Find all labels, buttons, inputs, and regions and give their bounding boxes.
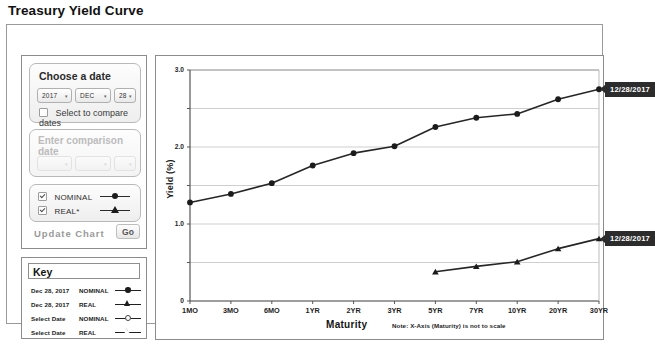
- month-select-value: DEC: [80, 92, 94, 99]
- chevron-down-icon: ▾: [65, 161, 68, 167]
- key-row-date: Select Date: [31, 329, 73, 336]
- x-axis-tick: 2YR: [334, 306, 374, 315]
- checkbox-icon[interactable]: [39, 108, 48, 117]
- chevron-down-icon: ▾: [65, 93, 68, 99]
- key-row-date: Dec 28, 2017: [31, 301, 73, 308]
- year-select[interactable]: 2017 ▾: [37, 88, 72, 103]
- x-axis-tick: 3YR: [375, 306, 415, 315]
- circle-marker-icon: [112, 193, 118, 199]
- key-row-date: Select Date: [31, 315, 73, 322]
- series-toggle-real[interactable]: REAL*: [38, 206, 102, 216]
- page-title: Treasury Yield Curve: [8, 3, 144, 18]
- y-axis-tick: 1.0: [160, 220, 184, 227]
- chevron-down-icon: ▾: [104, 93, 107, 99]
- series-toggle-nominal[interactable]: NOMINAL: [38, 192, 102, 202]
- open-circle-icon: [125, 315, 131, 321]
- month-select[interactable]: DEC ▾: [75, 88, 111, 103]
- compare-dates-checkbox-row[interactable]: Select to compare dates: [39, 108, 140, 128]
- series-toggle-panel: NOMINAL REAL*: [29, 184, 141, 222]
- series-toggle-nominal-label: NOMINAL: [54, 193, 102, 202]
- key-row-type: REAL: [79, 301, 115, 308]
- chevron-down-icon: ▾: [104, 161, 107, 167]
- x-axis-tick: 7YR: [456, 306, 496, 315]
- x-axis-tick: 3MO: [211, 306, 251, 315]
- comparison-year-select: ▾: [37, 156, 72, 171]
- chevron-down-icon: ▾: [129, 161, 132, 167]
- open-triangle-icon: [124, 328, 130, 334]
- x-axis-tick: 30YR: [579, 306, 619, 315]
- comparison-date-panel: Enter comparison date ▾ ▾ ▾: [29, 129, 141, 177]
- comparison-month-select: ▾: [75, 156, 111, 171]
- controls-column: Choose a date 2017 ▾ DEC ▾ 28 ▾ Select t…: [21, 55, 147, 249]
- app-frame: Choose a date 2017 ▾ DEC ▾ 28 ▾ Select t…: [6, 24, 603, 324]
- plot-area: [156, 56, 605, 341]
- y-axis-tick: 3.0: [160, 66, 184, 73]
- filled-triangle-icon: [124, 300, 130, 306]
- day-select[interactable]: 28 ▾: [114, 88, 136, 103]
- x-axis-tick: 10YR: [497, 306, 537, 315]
- comparison-day-select: ▾: [114, 156, 136, 171]
- year-select-value: 2017: [42, 92, 57, 99]
- nominal-series-tooltip: 12/28/2017: [605, 82, 655, 97]
- go-button[interactable]: Go: [116, 224, 140, 239]
- day-select-value: 28: [119, 92, 127, 99]
- key-row-date: Dec 28, 2017: [31, 287, 73, 294]
- y-axis-tick: 2.0: [160, 143, 184, 150]
- x-axis-tick: 5YR: [415, 306, 455, 315]
- x-axis-tick: 20YR: [538, 306, 578, 315]
- y-axis-tick: 0: [160, 297, 184, 304]
- comparison-date-label: Enter comparison date: [38, 135, 140, 157]
- y-axis-label: Yield (%): [165, 149, 175, 209]
- key-box: Key Dec 28, 2017 NOMINAL Dec 28, 2017 RE…: [21, 257, 147, 339]
- chart-panel: Yield (%) Maturity Note: X-Axis (Maturit…: [155, 55, 604, 340]
- checkbox-icon[interactable]: [38, 192, 47, 201]
- yield-curve-chart: [156, 56, 605, 341]
- chevron-down-icon: ▾: [129, 93, 132, 99]
- real-series-tooltip: 12/28/2017: [605, 231, 655, 246]
- checkbox-icon[interactable]: [38, 206, 47, 215]
- choose-date-panel: Choose a date 2017 ▾ DEC ▾ 28 ▾ Select t…: [29, 63, 141, 123]
- x-axis-note: Note: X-Axis (Maturity) is not to scale: [392, 322, 506, 329]
- key-row-type: NOMINAL: [79, 315, 115, 322]
- key-title: Key: [33, 266, 52, 278]
- x-axis-tick: 1MO: [170, 306, 210, 315]
- key-row-type: REAL: [79, 329, 115, 336]
- x-axis-tick: 6MO: [252, 306, 292, 315]
- x-axis-tick: 1YR: [293, 306, 333, 315]
- x-axis-label: Maturity: [326, 319, 367, 330]
- compare-dates-label: Select to compare dates: [39, 108, 128, 128]
- triangle-marker-icon: [111, 206, 119, 213]
- key-title-wrap: Key: [28, 263, 140, 279]
- filled-circle-icon: [125, 287, 131, 293]
- update-chart-label: Update Chart: [34, 228, 104, 239]
- series-toggle-real-label: REAL*: [54, 207, 102, 216]
- key-row-type: NOMINAL: [79, 287, 115, 294]
- choose-date-label: Choose a date: [39, 70, 111, 82]
